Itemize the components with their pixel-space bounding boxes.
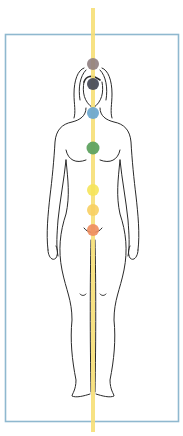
left-bust: [66, 150, 86, 162]
right-hand: [129, 246, 139, 259]
chakra-third-eye: [87, 78, 99, 90]
left-torso: [60, 160, 90, 397]
chakra-solar-plexus: [87, 184, 99, 196]
inner-leg-right: [95, 240, 96, 392]
right-torso: [96, 160, 126, 397]
chakra-root: [87, 224, 99, 236]
inner-leg-left: [90, 240, 91, 392]
chakra-heart: [87, 142, 100, 155]
left-knee: [80, 294, 86, 296]
right-inner-arm: [120, 160, 129, 256]
energy-line: [91, 8, 95, 432]
chakra-crown: [87, 58, 99, 70]
chakra-sacral: [87, 204, 99, 216]
left-shoulder: [47, 108, 86, 250]
left-inner-arm: [57, 160, 66, 256]
chakra-throat: [87, 107, 99, 119]
diagram-canvas: [0, 0, 183, 436]
chakra-points: [87, 58, 100, 236]
right-knee: [100, 294, 106, 296]
right-bust: [100, 150, 120, 162]
left-hand: [48, 246, 58, 259]
right-shoulder: [100, 108, 139, 250]
